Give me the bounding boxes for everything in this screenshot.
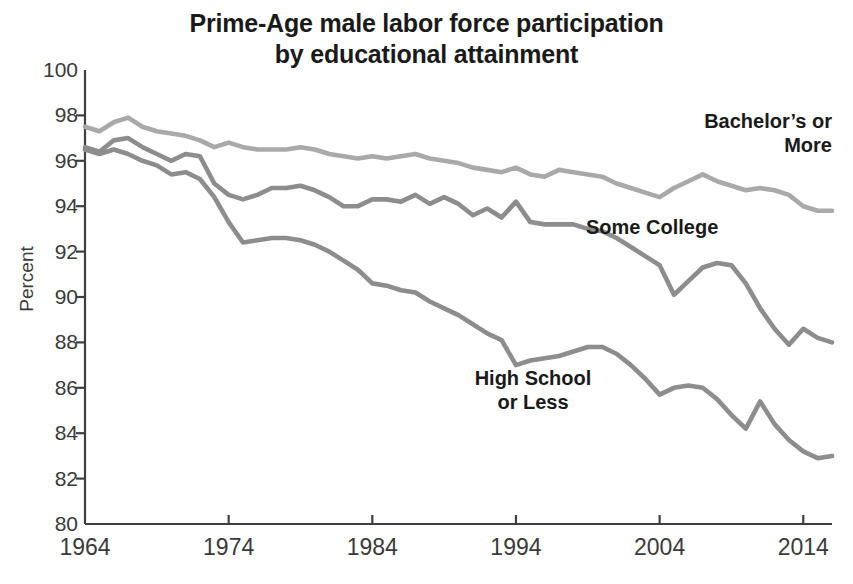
series-label-bachelors: Bachelor’s or More xyxy=(672,110,832,157)
chart-container: Prime-Age male labor force participation… xyxy=(0,0,853,584)
series-label-some-college: Some College xyxy=(586,216,786,240)
plot-area xyxy=(0,0,853,584)
series-label-high-school: High School or Less xyxy=(443,367,623,414)
